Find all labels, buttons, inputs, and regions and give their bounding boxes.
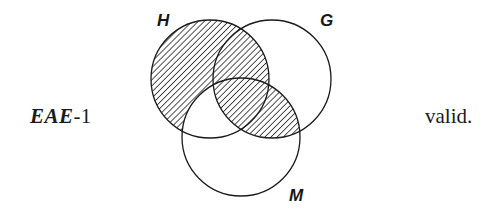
validity-label: valid.: [425, 104, 472, 129]
circle-label-g: G: [320, 11, 333, 31]
circle-label-h: H: [157, 11, 169, 31]
figure-page: EAE-1: [0, 0, 494, 222]
venn-svg: [0, 0, 494, 222]
circle-label-m: M: [289, 186, 303, 206]
venn-diagram: H G M: [0, 0, 494, 222]
